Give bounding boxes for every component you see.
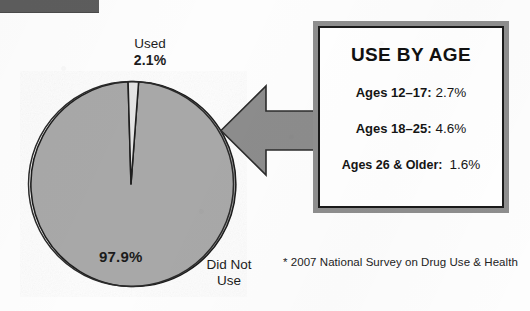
age-row-26-older-label: Ages 26 & Older: <box>342 158 443 172</box>
pie-label-did-not-use-line1: Did Not <box>196 257 262 273</box>
arrow-shape <box>221 86 326 175</box>
callout-arrow <box>218 82 326 182</box>
age-row-18-25: Ages 18–25:4.6% <box>330 119 492 137</box>
age-row-12-17-label: Ages 12–17: <box>356 85 432 100</box>
left-pointing-arrow-icon <box>218 82 326 182</box>
pie-label-used-value: 2.1% <box>104 52 196 69</box>
pie-label-used-name: Used <box>104 36 196 52</box>
pie-label-did-not-use-line2: Use <box>196 273 262 289</box>
pie-label-did-not-use: Did Not Use <box>196 257 262 289</box>
pie-label-used: Used 2.1% <box>104 36 196 68</box>
age-row-26-older-value: 1.6% <box>449 157 480 172</box>
use-by-age-callout-box: USE BY AGE Ages 12–17:2.7% Ages 18–25:4.… <box>313 21 509 213</box>
age-row-12-17-value: 2.7% <box>436 85 467 100</box>
age-row-18-25-value: 4.6% <box>436 121 467 136</box>
pie-value-did-not-use: 97.9% <box>99 248 143 265</box>
use-by-age-rows: Ages 12–17:2.7% Ages 18–25:4.6% Ages 26 … <box>330 72 492 196</box>
use-by-age-box-inner: USE BY AGE Ages 12–17:2.7% Ages 18–25:4.… <box>318 26 504 208</box>
source-footnote: * 2007 National Survey on Drug Use & Hea… <box>283 256 518 268</box>
cropped-header-bar <box>0 0 99 13</box>
use-by-age-title: USE BY AGE <box>351 44 471 66</box>
age-row-18-25-label: Ages 18–25: <box>356 121 432 136</box>
age-row-26-older: Ages 26 & Older:1.6% <box>330 155 492 173</box>
age-row-12-17: Ages 12–17:2.7% <box>330 83 492 101</box>
